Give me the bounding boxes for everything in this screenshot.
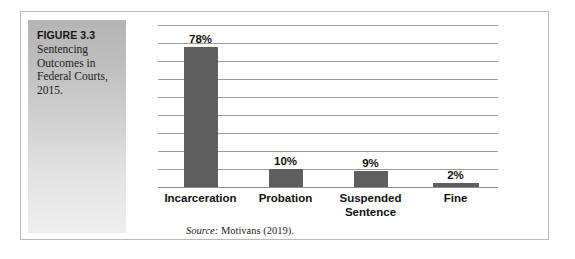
chart-bars: 78%10%9%2% — [158, 26, 498, 187]
x-axis-label-probation: Probation — [243, 191, 328, 219]
x-axis-label-incarceration: Incarceration — [158, 191, 243, 219]
bar-value-label: 78% — [189, 33, 212, 45]
bar-slot: 2% — [413, 26, 498, 187]
bar-value-label: 9% — [362, 157, 379, 169]
figure-caption-text: Sentencing Outcomes in Federal Courts, 2… — [37, 43, 118, 97]
figure-container: FIGURE 3.3 Sentencing Outcomes in Federa… — [20, 11, 549, 240]
chart-x-axis-line — [158, 187, 498, 188]
bar-suspended[interactable]: 9% — [354, 171, 388, 187]
figure-number-label: FIGURE 3.3 — [37, 29, 118, 42]
figure-source-line: Source: Motivans (2019). — [186, 225, 294, 236]
figure-caption-panel: FIGURE 3.3 Sentencing Outcomes in Federa… — [28, 20, 126, 233]
bar-slot: 9% — [328, 26, 413, 187]
source-text: Motivans (2019). — [221, 225, 294, 236]
bar-incarceration[interactable]: 78% — [184, 47, 218, 187]
x-axis-label-suspended: SuspendedSentence — [328, 191, 413, 219]
bar-value-label: 2% — [447, 169, 464, 181]
x-axis-label-fine: Fine — [413, 191, 498, 219]
bar-value-label: 10% — [274, 155, 297, 167]
bar-probation[interactable]: 10% — [269, 169, 303, 187]
chart-x-axis-labels: IncarcerationProbationSuspendedSentenceF… — [158, 191, 498, 219]
bar-slot: 78% — [158, 26, 243, 187]
source-label: Source: — [186, 225, 218, 236]
bar-slot: 10% — [243, 26, 328, 187]
chart-plot-area: 78%10%9%2% — [158, 26, 498, 188]
x-axis-label-line2: Sentence — [345, 206, 396, 218]
